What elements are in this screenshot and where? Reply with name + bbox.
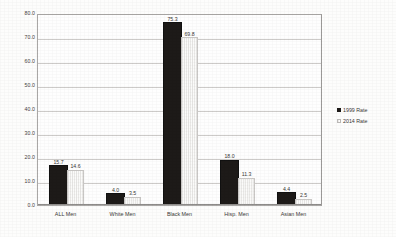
bar-group: 18.011.3	[215, 15, 260, 205]
x-tick-label: Black Men	[167, 211, 192, 217]
bar-1999: 15.7	[49, 165, 68, 205]
y-tick-label: 10.0	[9, 179, 35, 184]
bar-2014: 14.6	[67, 170, 84, 205]
x-axis: ALL MenWhite MenBlack MenHisp. MenAsian …	[37, 211, 322, 225]
bar-value-label: 18.0	[224, 154, 234, 159]
x-tick-label: White Men	[110, 211, 136, 217]
legend-item-2014: 2014 Rate	[337, 116, 393, 126]
bar-2014: 69.8	[181, 37, 198, 205]
legend-label-2014: 2014 Rate	[343, 118, 367, 124]
bar-value-label: 2.5	[300, 193, 307, 198]
bar-group: 75.369.8	[158, 15, 203, 205]
bar-value-label: 4.4	[283, 187, 290, 192]
x-axis-line	[38, 204, 321, 205]
x-tick-label: Asian Men	[281, 211, 306, 217]
y-tick-label: 70.0	[9, 35, 35, 40]
x-tick-label: Hisp. Men	[224, 211, 248, 217]
chart-legend: 1999 Rate 2014 Rate	[337, 105, 393, 127]
y-tick-label: 60.0	[9, 59, 35, 64]
y-tick-label: 40.0	[9, 107, 35, 112]
bar-value-label: 69.8	[184, 32, 194, 37]
y-tick-label: 50.0	[9, 83, 35, 88]
legend-swatch-icon-2014	[337, 119, 341, 123]
bar-value-label: 3.5	[129, 191, 136, 196]
bar-group: 15.714.6	[44, 15, 89, 205]
y-axis: 80.070.060.050.040.030.020.010.00.0	[9, 14, 35, 206]
legend-item-1999: 1999 Rate	[337, 105, 393, 115]
y-tick-label: 80.0	[9, 11, 35, 16]
bar-chart: 80.070.060.050.040.030.020.010.00.0 15.7…	[0, 0, 396, 237]
legend-label-1999: 1999 Rate	[343, 107, 367, 113]
bars-layer: 15.714.64.03.575.369.818.011.34.42.5	[38, 15, 321, 205]
bar-1999: 75.3	[163, 22, 182, 205]
bar-1999: 18.0	[220, 160, 239, 205]
plot-area: 15.714.64.03.575.369.818.011.34.42.5	[37, 14, 322, 206]
legend-swatch-icon-1999	[337, 108, 341, 112]
bar-value-label: 4.0	[112, 188, 119, 193]
bar-2014: 11.3	[238, 178, 255, 205]
y-tick-label: 20.0	[9, 155, 35, 160]
bar-value-label: 14.6	[70, 164, 80, 169]
y-tick-label: 30.0	[9, 131, 35, 136]
bar-value-label: 11.3	[242, 172, 252, 177]
x-tick-label: ALL Men	[55, 211, 76, 217]
bar-group: 4.42.5	[272, 15, 317, 205]
y-tick-label: 0.0	[9, 203, 35, 208]
bar-value-label: 75.3	[167, 17, 177, 22]
bar-value-label: 15.7	[53, 160, 63, 165]
bar-group: 4.03.5	[101, 15, 146, 205]
